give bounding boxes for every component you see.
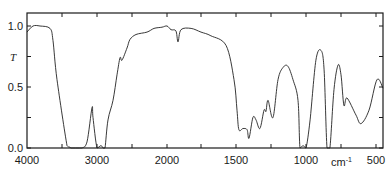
x-tick-label: 4000 xyxy=(15,154,39,166)
x-tick-label: 2000 xyxy=(155,154,179,166)
x-tick-label: 500 xyxy=(367,154,385,166)
y-axis-ticks xyxy=(27,26,383,148)
x-axis-tick-labels: 40003000200015001000500 xyxy=(15,154,385,166)
y-axis-tick-labels: 0.00.5T1.0 xyxy=(8,20,23,154)
x-tick-label: 3000 xyxy=(85,154,109,166)
y-tick-label: 0.5 xyxy=(8,81,23,93)
ir-spectrum-chart: 40003000200015001000500 0.00.5T1.0 cm-1 xyxy=(0,0,391,174)
spectrum-line xyxy=(27,25,383,148)
x-axis-ticks xyxy=(62,13,376,148)
y-tick-label: 0.0 xyxy=(8,142,23,154)
y-axis-label: T xyxy=(10,51,17,63)
x-tick-label: 1000 xyxy=(294,154,318,166)
x-tick-label: 1500 xyxy=(224,154,248,166)
x-axis-unit-label: cm-1 xyxy=(331,156,352,168)
y-tick-label: 1.0 xyxy=(8,20,23,32)
